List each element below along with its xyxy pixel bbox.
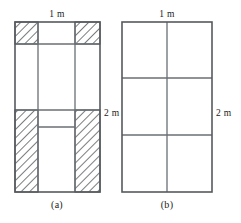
panel-a	[15, 22, 100, 192]
hatched-region-bottom-left	[15, 110, 38, 192]
panel-a-height-label: 2 m	[104, 108, 120, 118]
technical-figure: 1 m 2 m 1 m 2 m (a) (b)	[0, 0, 241, 223]
panel-a-caption: (a)	[51, 199, 63, 211]
panel-b-width-label: 1 m	[159, 9, 175, 19]
hatched-region-bottom-right	[75, 110, 100, 192]
panel-a-width-label: 1 m	[49, 9, 65, 19]
figure-board: 1 m 2 m 1 m 2 m (a) (b)	[0, 0, 241, 223]
panel-b	[122, 22, 212, 192]
hatched-region-top-right	[75, 22, 100, 44]
panel-b-height-label: 2 m	[216, 108, 232, 118]
hatched-region-top-left	[15, 22, 38, 44]
panel-b-caption: (b)	[161, 199, 174, 211]
